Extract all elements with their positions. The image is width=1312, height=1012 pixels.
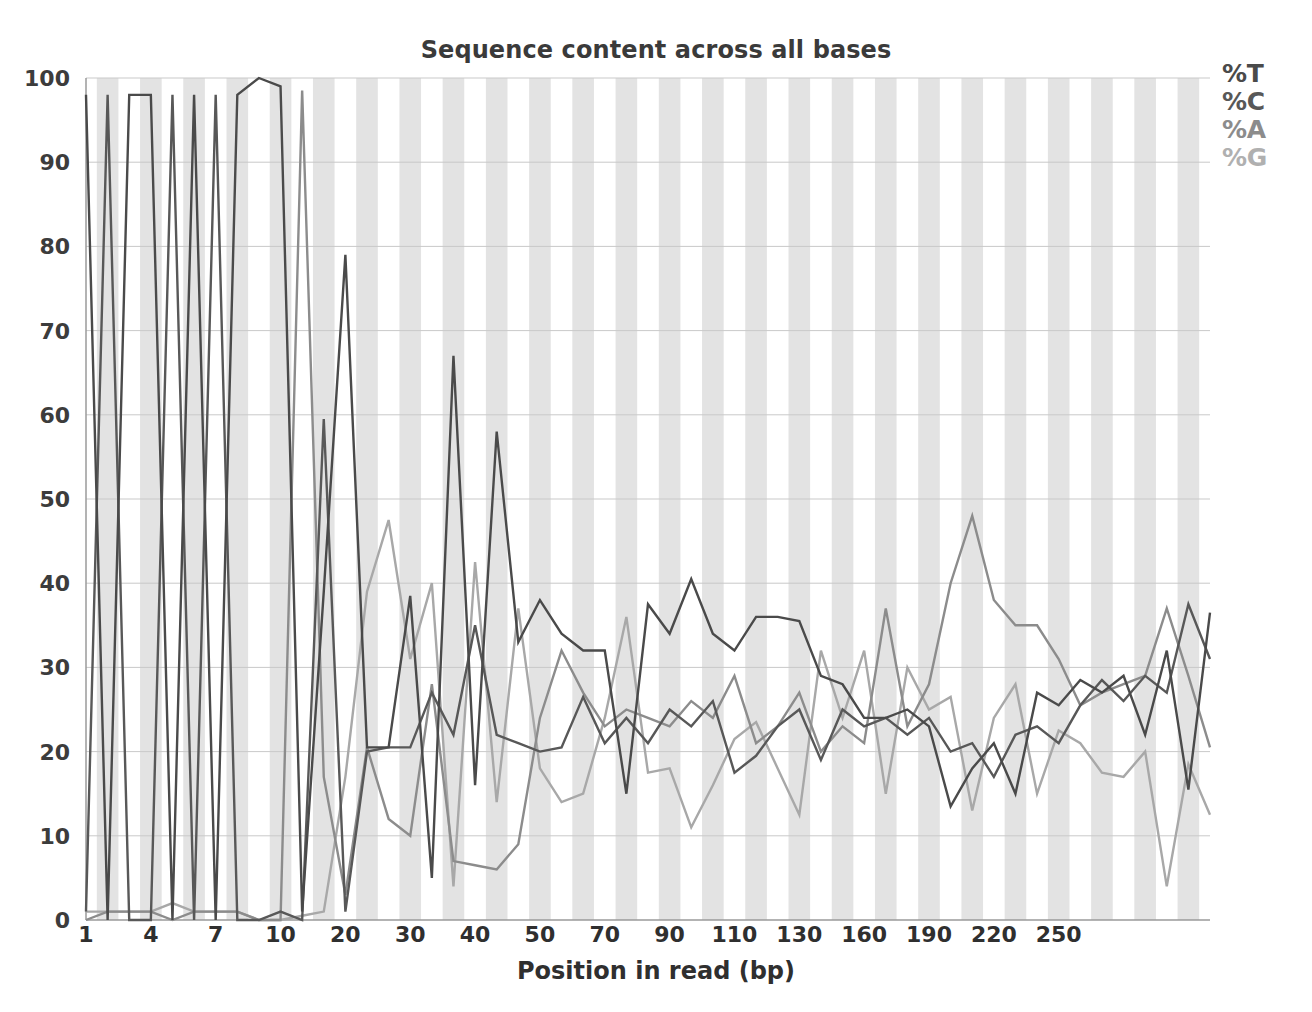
legend-item-pct-T: %T xyxy=(1222,60,1302,88)
x-tick-label: 10 xyxy=(265,922,296,947)
y-tick-label: 70 xyxy=(0,318,78,343)
x-tick-label: 7 xyxy=(208,922,223,947)
x-tick-label: 250 xyxy=(1036,922,1082,947)
x-tick-label: 70 xyxy=(589,922,620,947)
legend-item-pct-A: %A xyxy=(1222,116,1302,144)
sequence-content-chart: Sequence content across all bases 010203… xyxy=(0,0,1312,1012)
x-axis-title: Position in read (bp) xyxy=(0,957,1312,985)
y-tick-label: 50 xyxy=(0,487,78,512)
plot-area xyxy=(0,0,1312,1012)
x-tick-label: 1 xyxy=(78,922,93,947)
chart-legend: %T%C%A%G xyxy=(1222,60,1302,172)
y-tick-label: 20 xyxy=(0,739,78,764)
y-tick-label: 10 xyxy=(0,823,78,848)
y-tick-label: 100 xyxy=(0,66,78,91)
legend-item-pct-C: %C xyxy=(1222,88,1302,116)
gridlines xyxy=(86,78,1210,836)
x-tick-label: 50 xyxy=(525,922,556,947)
x-tick-label: 160 xyxy=(841,922,887,947)
y-tick-label: 90 xyxy=(0,150,78,175)
x-tick-label: 220 xyxy=(971,922,1017,947)
y-tick-label: 80 xyxy=(0,234,78,259)
series-line-pct-A xyxy=(86,91,1210,920)
x-tick-label: 20 xyxy=(330,922,361,947)
y-tick-label: 40 xyxy=(0,571,78,596)
page-title: Sequence content across all bases xyxy=(0,36,1312,64)
y-tick-label: 0 xyxy=(0,908,78,933)
x-tick-label: 190 xyxy=(906,922,952,947)
y-axis-tick-labels: 0102030405060708090100 xyxy=(0,0,78,1012)
x-tick-label: 40 xyxy=(460,922,491,947)
legend-item-pct-G: %G xyxy=(1222,144,1302,172)
x-tick-label: 30 xyxy=(395,922,426,947)
x-tick-label: 110 xyxy=(711,922,757,947)
x-tick-label: 130 xyxy=(776,922,822,947)
y-tick-label: 60 xyxy=(0,402,78,427)
x-tick-label: 90 xyxy=(654,922,685,947)
y-tick-label: 30 xyxy=(0,655,78,680)
series-line-pct-G xyxy=(86,520,1210,920)
series-line-pct-C xyxy=(86,95,1210,920)
x-tick-label: 4 xyxy=(143,922,158,947)
